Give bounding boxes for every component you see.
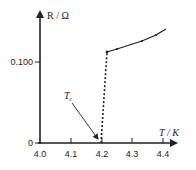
x-tick-label-4-4: 4.4 bbox=[157, 149, 170, 159]
transition-dotted-line bbox=[101, 52, 107, 143]
x-axis-label: T / K bbox=[159, 127, 180, 138]
y-tick-label-0: 0 bbox=[28, 138, 33, 148]
x-tick-label-4-1: 4.1 bbox=[65, 149, 78, 159]
x-tick-label-4-2: 4.2 bbox=[96, 149, 109, 159]
x-tick-label-4-0: 4.0 bbox=[34, 149, 47, 159]
resistance-temperature-chart: 0.100 0 4.0 4.1 4.2 4.3 4.4 R / Ω T / K … bbox=[0, 0, 196, 170]
y-ticks: 0.100 0 bbox=[10, 57, 40, 148]
axes bbox=[38, 12, 176, 144]
tc-pointer-arrow bbox=[72, 103, 98, 139]
tc-annotation: Tc bbox=[64, 90, 98, 139]
x-tick-label-4-3: 4.3 bbox=[126, 149, 139, 159]
normal-state-line bbox=[107, 29, 166, 52]
y-axis-label: R / Ω bbox=[47, 10, 69, 21]
y-tick-label-0100: 0.100 bbox=[10, 57, 33, 67]
tc-label: Tc bbox=[64, 90, 73, 102]
